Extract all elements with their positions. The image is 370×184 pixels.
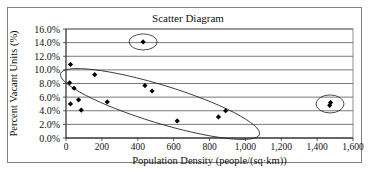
chart-title: Scatter Diagram — [152, 12, 224, 24]
x-tick-label: 400 — [131, 142, 146, 152]
data-point — [141, 39, 146, 44]
x-tick-label: 0 — [64, 142, 69, 152]
scatter-chart: Scatter Diagram0.0%2.0%4.0%6.0%8.0%10.0%… — [0, 0, 370, 184]
y-tick-label: 10.0% — [34, 64, 60, 75]
data-point — [76, 97, 81, 102]
data-point — [175, 118, 180, 123]
y-tick-label: 14.0% — [34, 37, 60, 48]
x-tick-label: 1,600 — [342, 142, 364, 152]
y-tick-label: 0.0% — [39, 133, 60, 144]
y-tick-label: 8.0% — [39, 78, 60, 89]
y-tick-label: 6.0% — [39, 92, 60, 103]
x-tick-label: 800 — [202, 142, 217, 152]
x-tick-label: 600 — [167, 142, 182, 152]
data-point — [79, 107, 84, 112]
y-tick-label: 16.0% — [34, 24, 60, 35]
data-point — [216, 114, 221, 119]
data-point — [68, 62, 73, 67]
x-tick-label: 200 — [95, 142, 110, 152]
data-point — [105, 99, 110, 104]
data-point — [68, 101, 73, 106]
y-tick-label: 4.0% — [39, 105, 60, 116]
x-tick-label: 1,400 — [306, 142, 328, 152]
y-tick-label: 12.0% — [34, 51, 60, 62]
data-point — [92, 72, 97, 77]
x-tick-label: 1,200 — [271, 142, 293, 152]
x-tick-label: 1,000 — [235, 142, 257, 152]
y-axis-title: Percent Vacant Units (%) — [8, 30, 20, 137]
data-point — [150, 88, 155, 93]
x-axis-title: Population Density (people/(sq·km)) — [132, 155, 287, 167]
y-tick-label: 2.0% — [39, 119, 60, 130]
